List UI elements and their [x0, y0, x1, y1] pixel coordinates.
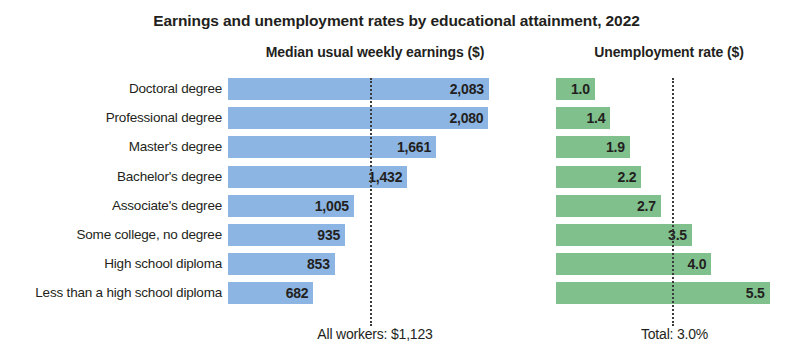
bar-earnings: 1,661 — [228, 136, 436, 158]
category-label: Some college, no degree — [0, 224, 222, 246]
bar-value-label: 1.4 — [587, 110, 611, 126]
bar-value-label: 5.5 — [746, 285, 770, 301]
bar-unemployment: 1.9 — [556, 136, 630, 158]
bar-value-label: 2,080 — [449, 110, 488, 126]
bar-earnings: 1,432 — [228, 166, 407, 188]
earnings-panel-subtitle: Median usual weekly earnings ($) — [225, 44, 525, 60]
bar-value-label: 1,432 — [368, 169, 407, 185]
unemployment-reference-line-icon — [672, 78, 674, 326]
bar-unemployment: 1.0 — [556, 78, 595, 100]
bar-value-label: 1.0 — [571, 81, 595, 97]
category-label: Bachelor's degree — [0, 166, 222, 188]
bar-value-label: 2.2 — [618, 169, 642, 185]
earnings-reference-line-icon — [370, 78, 372, 326]
category-label: Less than a high school diploma — [0, 282, 222, 304]
bar-value-label: 1,005 — [315, 198, 354, 214]
category-label: Professional degree — [0, 107, 222, 129]
bar-earnings: 2,080 — [228, 107, 488, 129]
chart-title: Earnings and unemployment rates by educa… — [0, 12, 793, 30]
bar-unemployment: 5.5 — [556, 282, 770, 304]
bar-value-label: 1,661 — [397, 139, 436, 155]
category-label: Doctoral degree — [0, 78, 222, 100]
bar-earnings: 682 — [228, 282, 313, 304]
bar-earnings: 1,005 — [228, 195, 354, 217]
bar-value-label: 935 — [317, 227, 345, 243]
category-label: High school diploma — [0, 253, 222, 275]
bar-unemployment: 2.2 — [556, 166, 641, 188]
unemployment-footer-note: Total: 3.0% — [556, 326, 793, 342]
bar-earnings: 853 — [228, 253, 335, 275]
bar-value-label: 2.7 — [637, 198, 661, 214]
earnings-footer-note: All workers: $1,123 — [225, 326, 525, 342]
category-axis: Doctoral degreeProfessional degreeMaster… — [0, 78, 222, 312]
category-label: Associate's degree — [0, 195, 222, 217]
unemployment-panel-subtitle: Unemployment rate ($) — [545, 44, 793, 60]
bar-value-label: 2,083 — [450, 81, 489, 97]
earnings-bars-panel: 2,0832,0801,6611,4321,005935853682 — [228, 78, 516, 312]
bar-earnings: 935 — [228, 224, 345, 246]
bar-value-label: 853 — [307, 256, 335, 272]
chart-container: Earnings and unemployment rates by educa… — [0, 0, 793, 352]
unemployment-bars-panel: 1.01.41.92.22.73.54.05.5 — [556, 78, 793, 312]
bar-unemployment: 4.0 — [556, 253, 711, 275]
bar-unemployment: 1.4 — [556, 107, 610, 129]
bar-value-label: 4.0 — [688, 256, 712, 272]
bar-value-label: 682 — [286, 285, 314, 301]
bar-earnings: 2,083 — [228, 78, 489, 100]
bar-value-label: 1.9 — [606, 139, 630, 155]
bar-unemployment: 2.7 — [556, 195, 661, 217]
category-label: Master's degree — [0, 136, 222, 158]
